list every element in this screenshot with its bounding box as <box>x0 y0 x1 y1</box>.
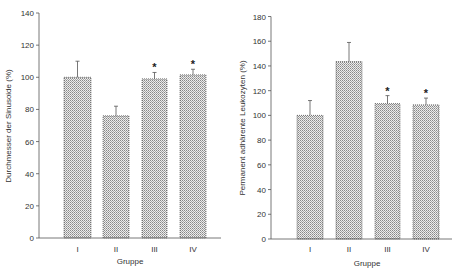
y-tick-label: 80 <box>25 105 34 114</box>
bar-IV <box>180 75 206 238</box>
significance-marker: * <box>385 85 390 97</box>
y-tick-label: 0 <box>262 235 267 244</box>
category-label: I <box>309 245 311 254</box>
bar-I <box>297 115 323 239</box>
category-label: III <box>384 245 391 254</box>
y-tick-label: 40 <box>257 186 266 195</box>
y-tick-label: 20 <box>257 210 266 219</box>
category-label: I <box>76 245 78 254</box>
category-label: III <box>151 245 158 254</box>
y-tick-label: 120 <box>253 87 267 96</box>
bar-III <box>142 79 167 238</box>
figure: III*III*IV020406080100120140GruppeDurchm… <box>0 0 465 273</box>
category-label: II <box>347 245 351 254</box>
y-tick-label: 140 <box>21 9 35 18</box>
category-label: IV <box>422 245 430 254</box>
y-tick-label: 60 <box>25 138 34 147</box>
significance-marker: * <box>152 61 157 73</box>
y-axis-title: Permanent adhärente Leukozyten (%) <box>238 60 247 196</box>
y-axis-title: Durchmesser der Sinusoide (%) <box>4 69 13 183</box>
y-tick-label: 160 <box>253 37 267 46</box>
x-axis-title: Gruppe <box>117 257 144 266</box>
significance-marker: * <box>424 87 429 99</box>
bar-IV <box>413 105 439 239</box>
chart-adherent-leukocytes: III*III*IV020406080100120140160180Gruppe… <box>238 13 452 269</box>
y-tick-label: 120 <box>21 41 35 50</box>
bar-II <box>336 62 362 239</box>
bar-I <box>64 77 91 238</box>
y-tick-label: 180 <box>253 13 267 22</box>
significance-marker: * <box>191 58 196 70</box>
y-tick-label: 100 <box>253 111 267 120</box>
bar-III <box>375 104 400 239</box>
y-tick-label: 80 <box>257 136 266 145</box>
y-tick-label: 20 <box>25 202 34 211</box>
x-axis-title: Gruppe <box>354 259 381 268</box>
y-tick-label: 40 <box>25 170 34 179</box>
y-tick-label: 0 <box>30 234 35 243</box>
chart-sinusoid-diameter: III*III*IV020406080100120140GruppeDurchm… <box>4 9 221 266</box>
category-label: IV <box>189 245 197 254</box>
category-label: II <box>114 245 118 254</box>
y-tick-label: 100 <box>21 73 35 82</box>
bar-II <box>103 116 129 238</box>
y-tick-label: 60 <box>257 161 266 170</box>
y-tick-label: 140 <box>253 62 267 71</box>
